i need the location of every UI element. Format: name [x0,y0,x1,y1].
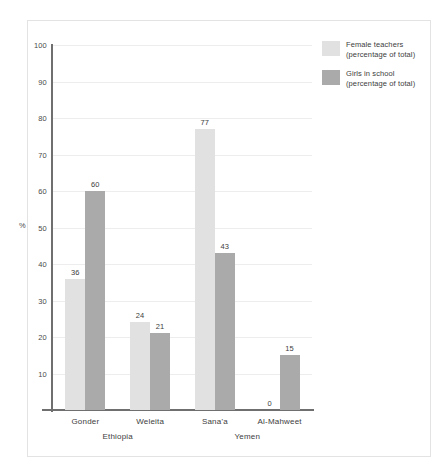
y-tick-label: 40 [21,260,47,269]
legend-color-swatch [322,41,340,56]
y-axis-ticks: 102030405060708090100 [17,0,47,474]
legend-item[interactable]: Female teachers(percentage of total) [322,40,432,60]
legend-label: Girls in school(percentage of total) [346,69,415,89]
legend-label-line2: (percentage of total) [346,50,415,60]
legend-label-line1: Girls in school [346,69,415,79]
legend-label-line2: (percentage of total) [346,79,415,89]
y-tick-label: 60 [21,187,47,196]
x-axis-group-label: Yemen [207,432,287,441]
bar-value-label: 60 [79,180,111,189]
bar-value-label: 21 [144,322,176,331]
y-tick-label: 10 [21,370,47,379]
legend-label: Female teachers(percentage of total) [346,40,415,60]
legend-label-line1: Female teachers [346,40,415,50]
legend-color-swatch [322,70,340,85]
gridline [53,118,312,119]
bar-value-label: 0 [254,399,286,408]
y-tick-label: 100 [21,41,47,50]
bar-value-label: 15 [274,344,306,353]
bar-value-label: 36 [59,268,91,277]
y-tick-label: 80 [21,114,47,123]
y-axis-line [51,44,53,412]
bar [215,253,235,410]
gridline [53,82,312,83]
legend-item[interactable]: Girls in school(percentage of total) [322,69,432,89]
bar-value-label: 43 [209,242,241,251]
x-axis-group-label: Ethiopia [78,432,158,441]
bar [85,191,105,410]
gridline [53,155,312,156]
y-tick-label: 90 [21,78,47,87]
bar [130,322,150,410]
y-tick-label: 70 [21,151,47,160]
bar [65,279,85,410]
bar-value-label: 24 [124,311,156,320]
y-axis-title: % [19,221,26,230]
bar-value-label: 77 [189,118,221,127]
bar [195,129,215,410]
y-tick-label: 30 [21,297,47,306]
x-axis-category-label: Al-Mahweet [240,417,320,426]
chart-legend: Female teachers(percentage of total)Girl… [322,40,432,98]
gridline [53,45,312,46]
bar [150,333,170,410]
y-tick-label: 20 [21,333,47,342]
bar-chart: 102030405060708090100 % 3660Gonder2421We… [0,0,447,474]
